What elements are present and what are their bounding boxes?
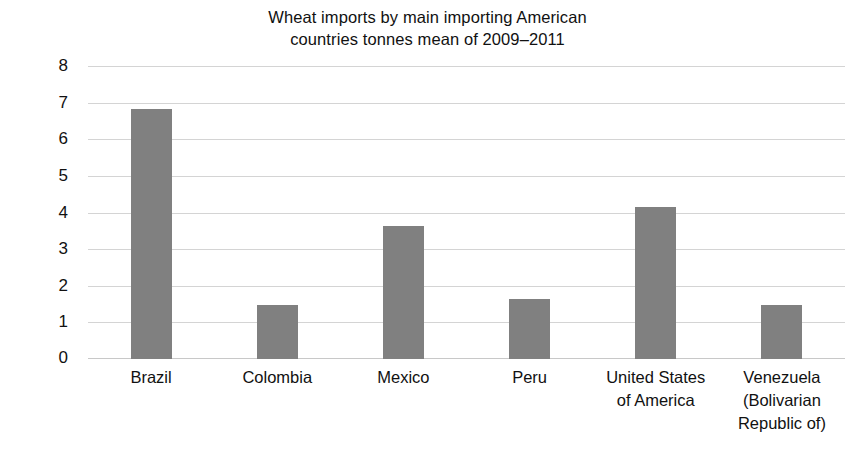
chart-title-line-2: countries tonnes mean of 2009–2011 <box>0 28 855 50</box>
x-label-peru: Peru <box>467 366 593 389</box>
x-label-line: Peru <box>467 366 593 389</box>
y-tick-3: 3 <box>0 240 68 257</box>
x-label-line: United States <box>593 366 719 389</box>
y-axis-tick-labels: 8 7 6 5 4 3 2 1 0 <box>0 66 80 359</box>
bars-layer <box>88 66 845 359</box>
bar-peru[interactable] <box>509 299 550 359</box>
bar-colombia[interactable] <box>257 305 298 359</box>
chart-title: Wheat imports by main importing American… <box>0 6 855 50</box>
y-tick-2: 2 <box>0 277 68 294</box>
y-tick-8: 8 <box>0 57 68 74</box>
bar-brazil[interactable] <box>131 109 172 359</box>
x-label-venezuela: Venezuela(BolivarianRepublic of) <box>719 366 845 435</box>
y-tick-6: 6 <box>0 130 68 147</box>
bar-united-states[interactable] <box>635 207 676 359</box>
y-tick-4: 4 <box>0 204 68 221</box>
bar-mexico[interactable] <box>383 226 424 359</box>
y-tick-1: 1 <box>0 313 68 330</box>
x-label-line: Venezuela <box>719 366 845 389</box>
x-label-line: Republic of) <box>719 412 845 435</box>
x-label-colombia: Colombia <box>214 366 340 389</box>
bar-venezuela[interactable] <box>761 305 802 359</box>
x-label-brazil: Brazil <box>88 366 214 389</box>
x-label-line: Brazil <box>88 366 214 389</box>
bar-chart: Wheat imports by main importing American… <box>0 0 855 472</box>
x-label-united-states: United Statesof America <box>593 366 719 412</box>
x-label-mexico: Mexico <box>340 366 466 389</box>
x-label-line: (Bolivarian <box>719 389 845 412</box>
x-axis-tick-labels: Brazil Colombia Mexico Peru United State… <box>88 366 845 466</box>
y-tick-0: 0 <box>0 349 68 366</box>
x-label-line: of America <box>593 389 719 412</box>
x-label-line: Colombia <box>214 366 340 389</box>
chart-title-line-1: Wheat imports by main importing American <box>0 6 855 28</box>
x-label-line: Mexico <box>340 366 466 389</box>
y-tick-5: 5 <box>0 167 68 184</box>
y-tick-7: 7 <box>0 94 68 111</box>
